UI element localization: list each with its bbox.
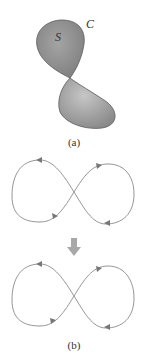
surface-upper-lobe [37, 20, 85, 78]
figure-eight-lower [12, 264, 134, 328]
surface-lower-lobe [59, 78, 115, 128]
direction-arrows-lower [36, 261, 110, 330]
down-arrow-icon [67, 238, 81, 256]
arrow-head-icon [52, 213, 58, 219]
caption-b: (b) [0, 339, 148, 351]
surface-label: S [55, 30, 61, 45]
figure-eight-upper [12, 160, 134, 224]
caption-a: (a) [0, 136, 148, 148]
twisted-surface [37, 20, 115, 128]
curve-label: C [86, 17, 94, 32]
arrow-head-icon [104, 324, 110, 330]
arrow-head-icon [104, 220, 110, 226]
arrow-head-icon [36, 157, 42, 163]
direction-arrows-upper [36, 157, 110, 226]
figure-canvas [0, 0, 148, 364]
arrow-head-icon [36, 261, 42, 267]
arrow-head-icon [96, 163, 102, 169]
